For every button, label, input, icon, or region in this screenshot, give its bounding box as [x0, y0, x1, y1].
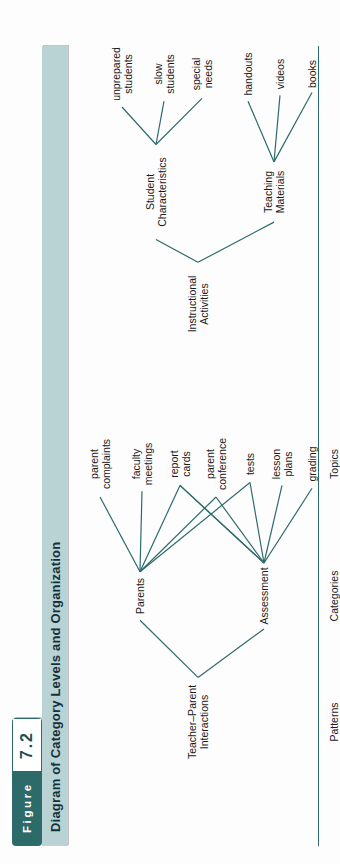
tree-node-books: books — [306, 60, 318, 88]
link-parents-to-tests — [140, 483, 250, 572]
link-assessment-to-parent-conference — [216, 497, 264, 563]
tree-node-assessment: Assessment — [258, 567, 270, 624]
tree-node-grading: grading — [306, 446, 318, 481]
tree-node-parent-complaints: parent complaints — [88, 439, 112, 489]
tree-node-student-characteristics: Student Characteristics — [144, 157, 168, 226]
tree-node-parent-conference: parent conference — [204, 438, 228, 490]
link-parents-to-faculty-meetings — [140, 491, 142, 572]
tree-node-report-cards: report cards — [168, 450, 192, 477]
figure-title: Diagram of Category Levels and Organizat… — [48, 542, 63, 846]
link-student-characteristics-to-unprepared-students — [122, 107, 156, 145]
level-label-patterns: Patterns — [328, 702, 340, 741]
link-parents-to-parent-complaints — [100, 497, 140, 572]
figure-page: Figure 7.2 Diagram of Category Levels an… — [0, 0, 340, 864]
link-instructional-activities-to-student-characteristics — [156, 240, 198, 263]
tree-node-handouts: handouts — [242, 52, 254, 95]
tree-node-lesson-plans: lesson plans — [270, 449, 294, 479]
diagram-canvas: Instructional ActivitiesTeacher–Parent I… — [68, 0, 340, 864]
figure-label: Figure — [12, 771, 42, 846]
link-parents-to-report-cards — [140, 485, 180, 571]
level-label-topics: Topics — [328, 449, 340, 479]
rotated-page-wrapper: Figure 7.2 Diagram of Category Levels an… — [0, 0, 340, 864]
link-assessment-to-lesson-plans — [264, 485, 282, 563]
tree-node-slow-students: slow students — [152, 54, 176, 94]
tree-node-unprepared-students: unprepared students — [110, 47, 134, 101]
tree-node-teaching-materials: Teaching Materials — [262, 171, 286, 214]
tree-node-teacher-parent-interactions: Teacher–Parent Interactions — [186, 685, 210, 759]
link-teaching-materials-to-handouts — [248, 101, 274, 162]
tree-node-videos: videos — [274, 59, 286, 89]
tree-node-parents: Parents — [134, 578, 146, 614]
link-assessment-to-tests — [250, 483, 264, 564]
tree-node-instructional-activities: Instructional Activities — [186, 276, 210, 333]
tree-node-faculty-meetings: faculty meetings — [130, 443, 154, 486]
tree-node-tests: tests — [244, 453, 256, 475]
figure-tab: Figure 7.2 — [12, 718, 42, 846]
link-teacher-parent-interactions-to-assessment — [198, 629, 264, 677]
tree-node-special-needs: special needs — [190, 58, 214, 91]
link-assessment-to-report-cards — [180, 485, 264, 563]
link-assessment-to-grading — [264, 488, 312, 563]
figure-number: 7.2 — [12, 718, 42, 771]
level-label-categories: Categories — [328, 571, 340, 622]
bottom-rule — [318, 46, 319, 846]
link-instructional-activities-to-teaching-materials — [198, 222, 274, 262]
link-parents-to-parent-conference — [140, 497, 216, 572]
link-teacher-parent-interactions-to-parents — [140, 620, 198, 677]
figure-title-band: Diagram of Category Levels and Organizat… — [42, 46, 68, 846]
